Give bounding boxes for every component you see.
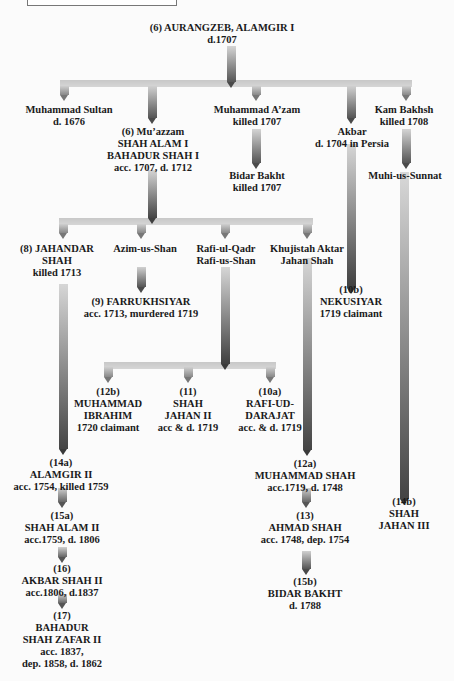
node-muhammad-shah: (12a) MUHAMMAD SHAH acc.1719, d. 1748 bbox=[255, 458, 356, 494]
arrow-down-icon bbox=[347, 144, 356, 294]
node-aurangzeb: (6) AURANGZEB, ALAMGIR I d.1707 bbox=[150, 22, 295, 46]
node-label: (15a) bbox=[24, 510, 100, 522]
node-muhi-us-sunnat: Muhi-us-Sunnat bbox=[368, 170, 442, 182]
node-label: (14b) bbox=[378, 496, 429, 508]
node-bidar-bakht-15b: (15b) BIDAR BAKHT d. 1788 bbox=[268, 576, 342, 612]
arrow-down-icon bbox=[302, 551, 311, 575]
node-label: 1719 claimant bbox=[320, 308, 383, 320]
node-label: d. 1704 in Persia bbox=[315, 138, 389, 150]
node-bahadur-shah-zafar-ii: (17) BAHADUR SHAH ZAFAR II acc. 1837, de… bbox=[22, 610, 102, 670]
arrow-down-icon bbox=[266, 367, 275, 383]
node-label: Jahan Shah bbox=[270, 255, 344, 267]
node-label: BAHADUR SHAH I bbox=[107, 150, 199, 162]
node-label: MUHAMMAD bbox=[74, 398, 142, 410]
node-label: Rafi-ul-Qadr bbox=[197, 243, 256, 255]
node-shah-alam-ii: (15a) SHAH ALAM II acc.1759, d. 1806 bbox=[24, 510, 100, 546]
arrow-down-icon bbox=[252, 129, 261, 169]
legend-box bbox=[27, 0, 177, 6]
node-label: acc.1759, d. 1806 bbox=[24, 534, 100, 546]
arrow-down-icon bbox=[347, 86, 356, 124]
node-label: Azim-us-Shan bbox=[113, 243, 177, 255]
node-label: killed 1707 bbox=[229, 182, 285, 194]
node-label: AKBAR SHAH II bbox=[21, 575, 102, 587]
arrow-down-icon bbox=[221, 224, 230, 239]
node-label: (6) Mu’azzam bbox=[107, 126, 199, 138]
node-label: acc. 1748, dep. 1754 bbox=[261, 534, 350, 546]
node-label: killed 1707 bbox=[214, 116, 300, 128]
node-label: killed 1708 bbox=[375, 116, 434, 128]
node-label: (16) bbox=[21, 563, 102, 575]
node-label: dep. 1858, d. 1862 bbox=[22, 658, 102, 670]
arrow-down-icon bbox=[252, 86, 261, 101]
node-label: 1720 claimant bbox=[74, 422, 142, 434]
node-label: JAHAN III bbox=[378, 520, 429, 532]
arrow-down-icon bbox=[303, 258, 312, 456]
node-label: d. 1676 bbox=[25, 116, 112, 128]
arrow-down-icon bbox=[221, 267, 230, 370]
node-label: SHAH bbox=[378, 508, 429, 520]
node-jahandar-shah: (8) JAHANDAR SHAH killed 1713 bbox=[20, 243, 94, 279]
node-akbar-shah-ii: (16) AKBAR SHAH II acc.1806, d.1837 bbox=[21, 563, 102, 599]
node-label: Muhammad Sultan bbox=[25, 104, 112, 116]
node-label: (6) AURANGZEB, ALAMGIR I bbox=[150, 22, 295, 34]
connector-bar-aurangzeb-children bbox=[60, 80, 412, 87]
node-label: acc.1806, d.1837 bbox=[21, 587, 102, 599]
node-ahmad-shah: (13) AHMAD SHAH acc. 1748, dep. 1754 bbox=[261, 510, 350, 546]
node-label: IBRAHIM bbox=[74, 410, 142, 422]
arrow-down-icon bbox=[137, 267, 146, 293]
node-label: JAHAN II bbox=[158, 410, 219, 422]
node-label: RAFI-UD- bbox=[238, 398, 301, 410]
arrow-down-icon bbox=[104, 367, 113, 383]
node-rafi-ud-darajat: (10a) RAFI-UD- DARAJAT acc. & d. 1719 bbox=[238, 386, 301, 434]
node-azim-us-shan: Azim-us-Shan bbox=[113, 243, 177, 255]
node-rafi-ul-qadr: Rafi-ul-Qadr Rafi-us-Shan bbox=[197, 243, 256, 267]
node-kam-bakhsh: Kam Bakhsh killed 1708 bbox=[375, 104, 434, 128]
arrow-down-icon bbox=[402, 129, 411, 169]
node-label: SHAH ALAM I bbox=[107, 138, 199, 150]
node-shah-jahan-ii: (11) SHAH JAHAN II acc & d. 1719 bbox=[158, 386, 219, 434]
node-muazzam: (6) Mu’azzam SHAH ALAM I BAHADUR SHAH I … bbox=[107, 126, 199, 174]
node-label: Muhi-us-Sunnat bbox=[368, 170, 442, 182]
node-label: acc. 1754, killed 1759 bbox=[14, 481, 109, 493]
node-label: (13) bbox=[261, 510, 350, 522]
node-muhammad-ibrahim: (12b) MUHAMMAD IBRAHIM 1720 claimant bbox=[74, 386, 142, 434]
node-muhammad-azam: Muhammad A’zam killed 1707 bbox=[214, 104, 300, 128]
node-label: Bidar Bakht bbox=[229, 170, 285, 182]
node-label: (8) JAHANDAR bbox=[20, 243, 94, 255]
node-label: (17) bbox=[22, 610, 102, 622]
node-label: killed 1713 bbox=[20, 267, 94, 279]
node-label: ALAMGIR II bbox=[14, 469, 109, 481]
node-label: (12b) bbox=[74, 386, 142, 398]
node-label: BIDAR BAKHT bbox=[268, 588, 342, 600]
arrow-down-icon bbox=[148, 86, 157, 124]
node-label: (9) FARRUKHSIYAR bbox=[84, 296, 198, 308]
node-label: NEKUSIYAR bbox=[320, 296, 383, 308]
node-label: DARAJAT bbox=[238, 410, 301, 422]
node-nekusiyar: (10b) NEKUSIYAR 1719 claimant bbox=[320, 284, 383, 320]
node-label: (15b) bbox=[268, 576, 342, 588]
node-label: SHAH ALAM II bbox=[24, 522, 100, 534]
node-label: acc. 1837, bbox=[22, 646, 102, 658]
node-label: d.1707 bbox=[150, 34, 295, 46]
node-label: SHAH ZAFAR II bbox=[22, 634, 102, 646]
node-shah-jahan-iii: (14b) SHAH JAHAN III bbox=[378, 496, 429, 532]
node-label: Kam Bakhsh bbox=[375, 104, 434, 116]
arrow-down-icon bbox=[303, 224, 312, 239]
arrow-down-icon bbox=[60, 86, 69, 101]
arrow-down-icon bbox=[137, 224, 146, 239]
node-alamgir-ii: (14a) ALAMGIR II acc. 1754, killed 1759 bbox=[14, 457, 109, 493]
node-label: AHMAD SHAH bbox=[261, 522, 350, 534]
arrow-down-icon bbox=[184, 367, 193, 383]
node-label: acc & d. 1719 bbox=[158, 422, 219, 434]
node-muhammad-sultan: Muhammad Sultan d. 1676 bbox=[25, 104, 112, 128]
arrow-down-icon bbox=[59, 284, 68, 455]
node-label: (14a) bbox=[14, 457, 109, 469]
node-label: SHAH bbox=[158, 398, 219, 410]
node-label: Muhammad A’zam bbox=[214, 104, 300, 116]
node-label: Khujistah Aktar bbox=[270, 243, 344, 255]
node-label: SHAH bbox=[20, 255, 94, 267]
node-farrukhsiyar: (9) FARRUKHSIYAR acc. 1713, murdered 171… bbox=[84, 296, 198, 320]
node-label: MUHAMMAD SHAH bbox=[255, 470, 356, 482]
node-label: Rafi-us-Shan bbox=[197, 255, 256, 267]
node-label: acc. 1713, murdered 1719 bbox=[84, 308, 198, 320]
